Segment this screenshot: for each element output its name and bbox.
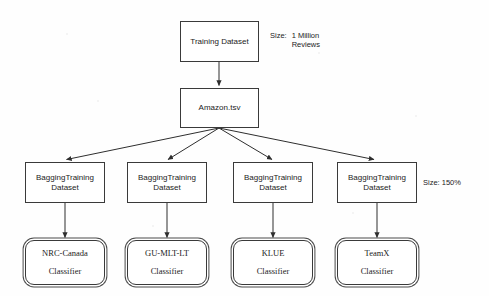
scan-speckle (152, 225, 154, 227)
node-classifier-klue[interactable]: KLUE Classifier (233, 240, 313, 285)
bagging-dataset-3-line1: BaggingTraining (244, 173, 302, 183)
training-size-value: 1 Million Reviews (292, 31, 320, 49)
edge-amazon-to-bagging-3 (219, 128, 272, 160)
bagging-size-annotation: Size: 150% (423, 178, 461, 187)
training-dataset-label: Training Dataset (190, 37, 248, 47)
bagging-dataset-1-line1: BaggingTraining (36, 173, 94, 183)
scan-speckle (318, 52, 320, 54)
bagging-dataset-4-line1: BaggingTraining (348, 173, 406, 183)
training-size-key: Size: (270, 31, 287, 40)
node-classifier-gu-mlt-lt[interactable]: GU-MLT-LT Classifier (127, 240, 207, 285)
scan-speckle (415, 115, 417, 117)
training-size-value-line2: Reviews (292, 40, 320, 49)
bagging-dataset-2-line1: BaggingTraining (138, 173, 196, 183)
edge-amazon-to-bagging-2 (168, 128, 219, 160)
training-size-annotation: Size: 1 Million Reviews (270, 31, 320, 49)
node-training-dataset[interactable]: Training Dataset (180, 21, 259, 62)
bagging-dataset-1-line2: Dataset (51, 183, 79, 193)
classifier-4-name: TeamX (365, 248, 390, 259)
edge-amazon-to-bagging-1 (67, 128, 220, 160)
node-classifier-nrc-canada[interactable]: NRC-Canada Classifier (25, 240, 105, 285)
classifier-2-role: Classifier (151, 266, 184, 277)
node-bagging-dataset-3[interactable]: BaggingTraining Dataset (233, 162, 313, 203)
training-size-value-line1: 1 Million (292, 31, 320, 40)
bagging-dataset-3-line2: Dataset (259, 183, 287, 193)
scan-speckle (97, 100, 99, 102)
amazon-tsv-label: Amazon.tsv (199, 103, 241, 113)
classifier-2-name: GU-MLT-LT (145, 248, 189, 259)
node-bagging-dataset-2[interactable]: BaggingTraining Dataset (127, 162, 207, 203)
node-amazon-tsv[interactable]: Amazon.tsv (180, 88, 259, 128)
node-bagging-dataset-4[interactable]: BaggingTraining Dataset (337, 162, 417, 203)
classifier-3-role: Classifier (257, 266, 290, 277)
node-classifier-teamx[interactable]: TeamX Classifier (337, 240, 417, 285)
bagging-dataset-2-line2: Dataset (153, 183, 181, 193)
scan-speckle (66, 33, 68, 35)
node-bagging-dataset-1[interactable]: BaggingTraining Dataset (25, 162, 105, 203)
bagging-dataset-4-line2: Dataset (363, 183, 391, 193)
diagram-canvas: Training Dataset Size: 1 Million Reviews… (0, 0, 489, 296)
classifier-4-role: Classifier (361, 266, 394, 277)
scan-speckle (352, 212, 354, 214)
classifier-1-name: NRC-Canada (42, 248, 88, 259)
classifier-3-name: KLUE (262, 248, 285, 259)
edge-amazon-to-bagging-4 (219, 128, 374, 160)
classifier-1-role: Classifier (49, 266, 82, 277)
